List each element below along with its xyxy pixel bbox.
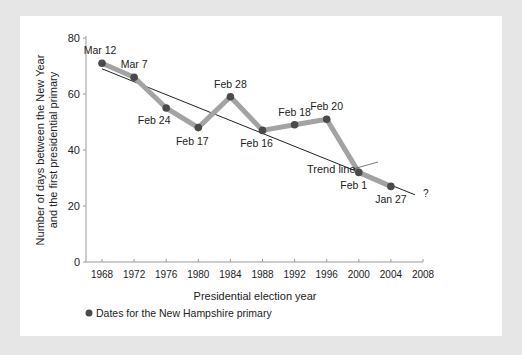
line-chart: 0204060801968197219761980198419881992199… [0, 0, 522, 355]
data-label: Feb 18 [278, 106, 311, 118]
data-point [259, 127, 267, 135]
y-tick-label: 80 [68, 32, 80, 44]
y-tick-label: 60 [68, 88, 80, 100]
data-point [195, 124, 203, 132]
x-tick-label: 1992 [283, 269, 306, 280]
y-tick-label: 20 [68, 200, 80, 212]
data-label: Feb 17 [176, 135, 209, 147]
y-axis-label: Number of days between the New Yearand t… [34, 54, 59, 245]
x-tick-label: 2004 [380, 269, 403, 280]
data-point [98, 59, 106, 67]
legend-marker [86, 310, 93, 317]
x-tick-label: 1988 [251, 269, 274, 280]
data-label: Feb 24 [138, 114, 171, 126]
data-label: Feb 28 [214, 78, 247, 90]
x-tick-label: 1980 [187, 269, 210, 280]
data-label: Feb 16 [240, 137, 273, 149]
trend-line-label: Trend line [307, 163, 356, 175]
x-axis-label: Presidential election year [194, 290, 317, 302]
data-point [162, 104, 170, 112]
data-label: Mar 7 [121, 58, 148, 70]
y-tick-label: 40 [68, 144, 80, 156]
data-label: Jan 27 [375, 193, 407, 205]
data-label: Feb 20 [310, 100, 343, 112]
data-label: Feb 1 [340, 179, 367, 191]
data-point [355, 169, 363, 177]
x-tick-label: 2000 [348, 269, 371, 280]
x-tick-label: 1996 [316, 269, 339, 280]
data-point [227, 93, 235, 101]
data-point [387, 183, 395, 191]
x-tick-label: 1968 [91, 269, 114, 280]
data-point [291, 121, 299, 129]
x-tick-label: 1984 [219, 269, 242, 280]
x-tick-label: 1972 [123, 269, 146, 280]
data-label: Mar 12 [84, 44, 117, 56]
x-tick-label: 2008 [412, 269, 435, 280]
data-point [323, 115, 331, 123]
trend-end-annotation: ? [423, 188, 429, 199]
x-tick-label: 1976 [155, 269, 178, 280]
y-tick-label: 0 [74, 256, 80, 268]
data-point [130, 73, 138, 81]
legend-label: Dates for the New Hampshire primary [96, 307, 272, 319]
